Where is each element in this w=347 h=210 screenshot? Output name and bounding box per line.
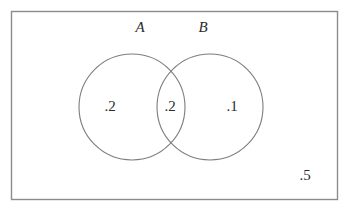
set-b-label: B: [198, 19, 207, 35]
region-value-a-intersect-b: .2: [164, 98, 175, 114]
venn-diagram-canvas: A B .2 .2 .1 .5: [0, 0, 347, 210]
region-value-b-only: .1: [226, 98, 237, 114]
set-a-label: A: [134, 19, 145, 35]
region-value-outside: .5: [299, 167, 310, 183]
venn-diagram-figure: A B .2 .2 .1 .5: [0, 0, 347, 210]
region-value-a-only: .2: [104, 98, 115, 114]
